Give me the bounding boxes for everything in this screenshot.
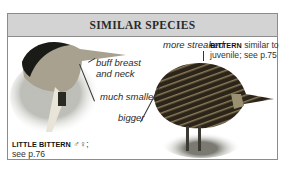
sex-symbols: ♂♀; xyxy=(73,139,88,149)
leader-line-streaked xyxy=(203,51,204,61)
bittern-name: BITTERN xyxy=(210,41,242,50)
bittern-ref: juvenile; see p.75 xyxy=(210,50,277,60)
annotation-buff-neck: and neck xyxy=(96,69,135,80)
little-bittern-ref: see p.76 xyxy=(12,149,45,159)
similar-species-panel: SIMILAR SPECIES xyxy=(7,13,278,160)
annotation-much-smaller: much smaller xyxy=(100,92,157,103)
panel-header: SIMILAR SPECIES xyxy=(8,14,277,37)
bittern-illustration xyxy=(146,54,278,159)
little-bittern-name: LITTLE BITTERN xyxy=(12,140,71,149)
little-bittern-illustration xyxy=(10,37,130,137)
annotation-buff-breast: buff breast xyxy=(96,58,141,69)
bittern-note: similar to xyxy=(244,40,278,50)
panel-title: SIMILAR SPECIES xyxy=(90,19,196,31)
